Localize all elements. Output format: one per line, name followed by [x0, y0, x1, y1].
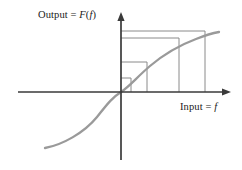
x-axis-label: Input = f — [180, 101, 217, 112]
y-axis-arrowhead-icon — [117, 12, 124, 21]
transfer-function-curve — [45, 32, 219, 148]
construction-horizontal-lines — [121, 31, 205, 78]
figure-canvas — [0, 0, 242, 170]
y-axis — [117, 12, 124, 160]
y-axis-label-close-paren: ) — [92, 9, 96, 20]
transfer-function-figure: Output = F(f) Input = f — [0, 0, 242, 170]
y-axis-label: Output = F(f) — [38, 9, 96, 20]
y-axis-label-prefix: Output = — [38, 9, 79, 20]
x-axis-arrowhead-icon — [222, 88, 231, 95]
x-axis-label-variable: f — [214, 101, 217, 112]
x-axis-label-prefix: Input = — [180, 101, 214, 112]
